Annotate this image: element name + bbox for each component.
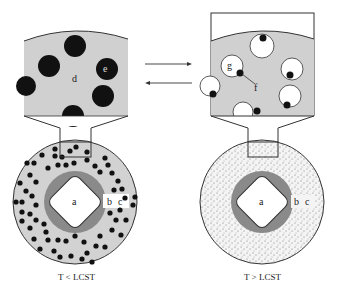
caption-left: T < LCST [58, 272, 95, 282]
label-e: e [103, 63, 108, 74]
lcst-diagram: d e a b c T < LCST [0, 0, 337, 295]
label-g: g [227, 60, 232, 71]
label-b-left: b [107, 196, 112, 207]
label-c-left: c [118, 196, 123, 207]
label-a-left: a [72, 196, 77, 207]
caption-right: T > LCST [244, 272, 281, 282]
reversible-arrows [145, 62, 192, 85]
left-cross-section: a b c T < LCST [13, 140, 138, 282]
label-d: d [72, 73, 77, 84]
label-c-right: c [305, 196, 310, 207]
label-b-right: b [294, 196, 299, 207]
right-magnified-view: g f [200, 13, 320, 157]
label-a-right: a [259, 196, 264, 207]
left-magnified-view: d e [0, 31, 140, 157]
right-cross-section: a b c T > LCST [200, 140, 324, 282]
